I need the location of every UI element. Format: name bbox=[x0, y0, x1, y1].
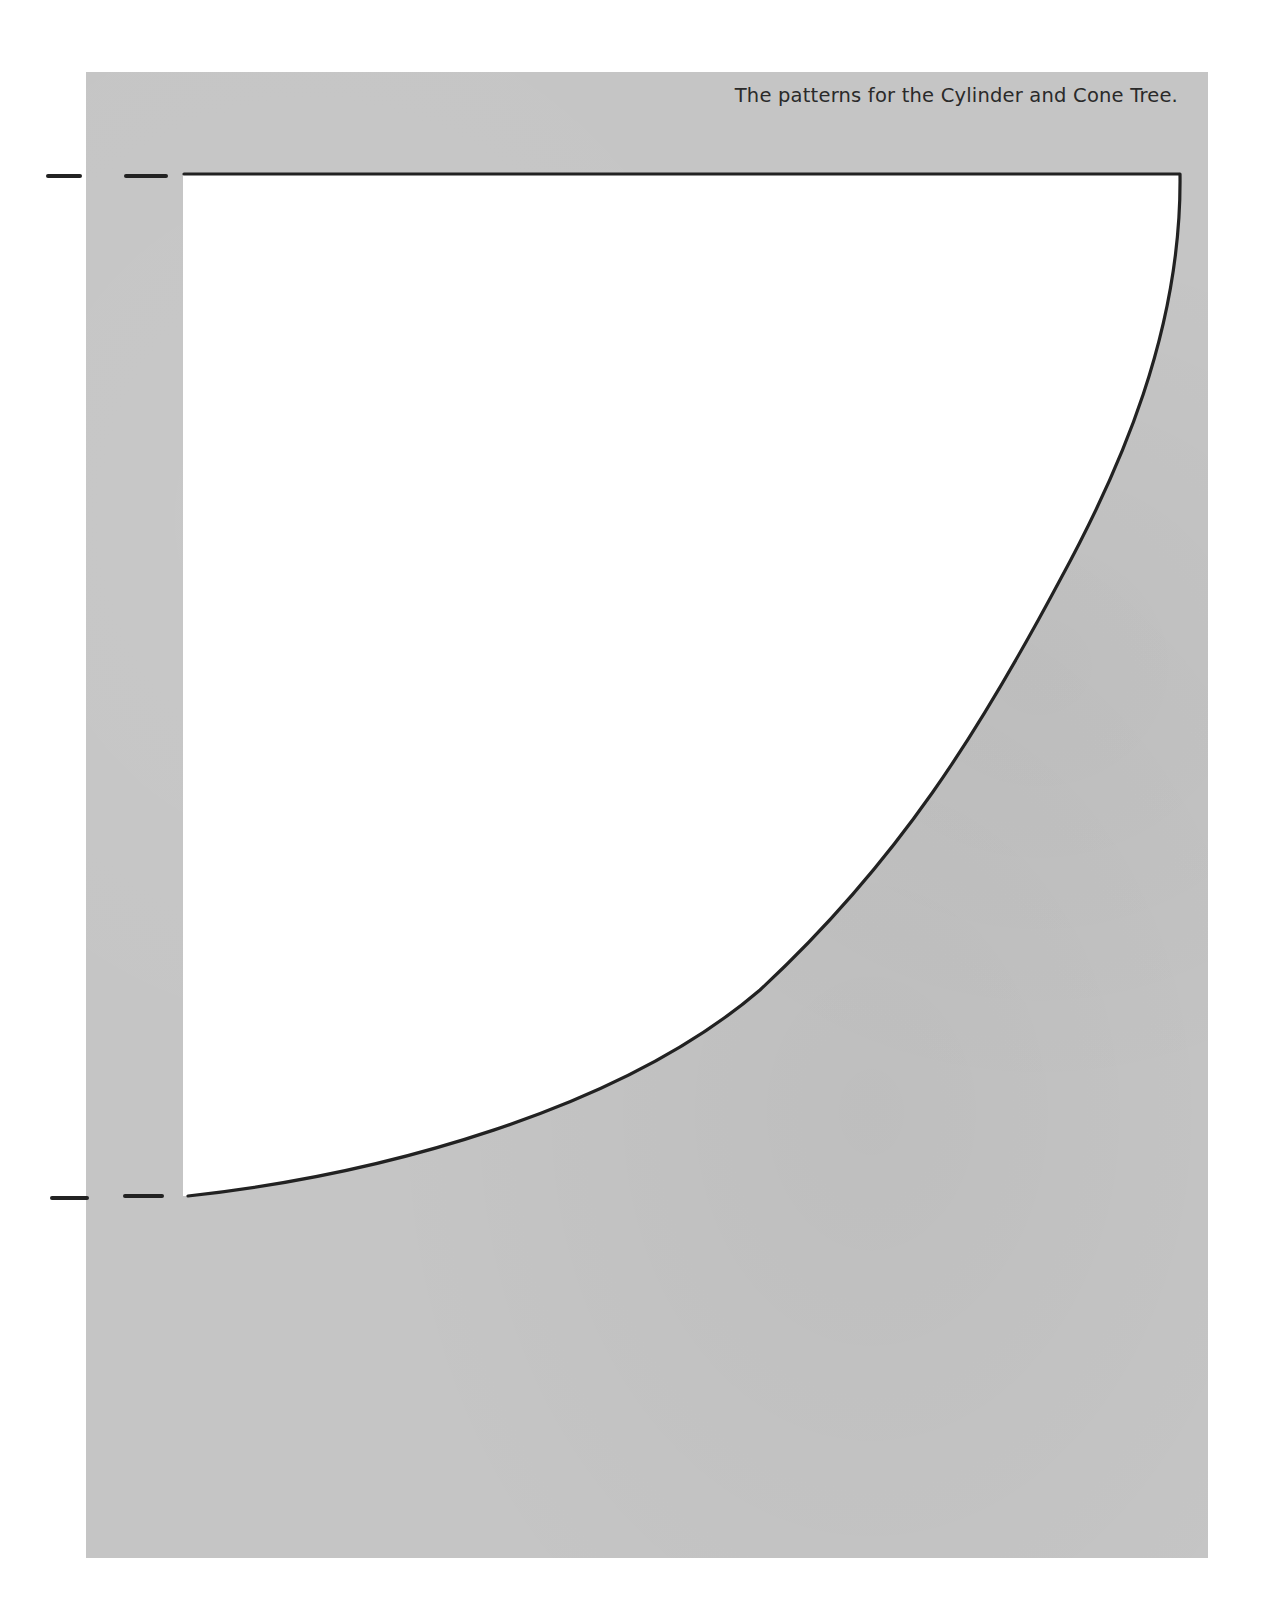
pattern-fill-region bbox=[183, 174, 1180, 1196]
cone-tree-pattern bbox=[0, 0, 1271, 1607]
